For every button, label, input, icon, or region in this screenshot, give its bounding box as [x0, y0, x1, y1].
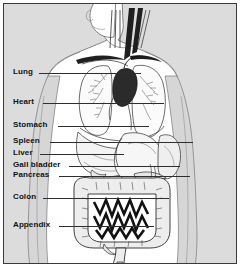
- leader-colon: [43, 198, 169, 199]
- label-lung: Lung: [13, 67, 33, 76]
- leader-lung: [39, 73, 141, 74]
- anatomy-figure: Lung Heart Stomach Spleen Liver Gall bla…: [0, 0, 242, 269]
- label-gall-bladder: Gall bladder: [13, 160, 60, 169]
- label-heart: Heart: [13, 97, 34, 106]
- label-pancreas: Pancreas: [13, 170, 49, 179]
- leader-stomach: [58, 126, 149, 127]
- leader-pancreas: [59, 176, 190, 177]
- label-spleen: Spleen: [13, 136, 40, 145]
- label-stomach: Stomach: [13, 120, 48, 129]
- leader-appendix: [59, 226, 154, 227]
- leader-gall-bladder: [69, 166, 180, 167]
- figure-plate: Lung Heart Stomach Spleen Liver Gall bla…: [3, 3, 237, 264]
- label-liver: Liver: [13, 148, 33, 157]
- leader-heart: [43, 103, 164, 104]
- leader-liver: [40, 154, 124, 155]
- label-appendix: Appendix: [13, 220, 50, 229]
- leader-spleen: [50, 142, 193, 143]
- label-colon: Colon: [13, 192, 36, 201]
- colon: [74, 177, 170, 248]
